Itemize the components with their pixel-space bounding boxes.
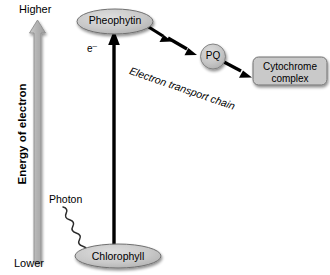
node-label-pheophytin[interactable]: Pheophytin: [79, 14, 151, 26]
electron-excitation-arrow: [108, 30, 120, 252]
diagram-graphics-layer: [0, 0, 330, 275]
axis-title: Energy of electron: [16, 79, 28, 189]
axis-high-label: Higher: [19, 3, 51, 15]
axis-low-label: Lower: [14, 257, 44, 269]
node-label-cytochrome-complex[interactable]: Cytochrome complex: [256, 61, 324, 85]
energy-axis-arrow: [30, 20, 46, 262]
node-label-cytochrome-line1: Cytochrome: [256, 61, 324, 73]
electron-charge-sign: –: [93, 41, 97, 50]
photon-annotation: Photon: [49, 193, 82, 205]
node-label-pq[interactable]: PQ: [200, 50, 226, 61]
node-label-cytochrome-line2: complex: [256, 73, 324, 85]
electron-annotation: e–: [87, 43, 97, 54]
photosynthesis-energy-diagram: Higher Lower Energy of electron Pheophyt…: [0, 0, 330, 275]
node-label-chlorophyll[interactable]: Chlorophyll: [78, 250, 158, 262]
